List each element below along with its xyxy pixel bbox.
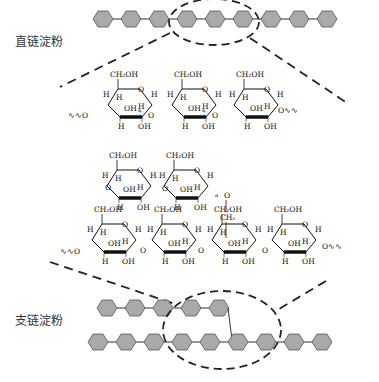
- svg-text:O: O: [198, 246, 204, 255]
- svg-text:α: α: [215, 192, 219, 198]
- svg-text:O: O: [262, 246, 268, 255]
- amylopectin-haworth-structure: ∿∿O O O O O∿∿: [60, 205, 342, 266]
- amylose-haworth-structure: ∿∿O O O O∿∿ α α: [68, 70, 298, 131]
- svg-text:O: O: [105, 183, 111, 192]
- svg-text:O: O: [162, 184, 168, 193]
- svg-text:∿∿O: ∿∿O: [60, 247, 80, 256]
- svg-text:O: O: [148, 111, 154, 120]
- amylose-chain: [93, 11, 337, 27]
- starch-structure-diagram: CH₂OH O H H OH H H H OH ∿∿O O O: [0, 0, 379, 382]
- svg-text:O∿∿: O∿∿: [278, 106, 298, 115]
- svg-text:O∿∿: O∿∿: [322, 242, 342, 251]
- svg-text:∿∿O: ∿∿O: [68, 111, 88, 120]
- amylopectin-chain: [88, 300, 332, 350]
- svg-text:O: O: [140, 246, 146, 255]
- svg-text:O: O: [212, 111, 218, 120]
- svg-text:O: O: [224, 191, 230, 200]
